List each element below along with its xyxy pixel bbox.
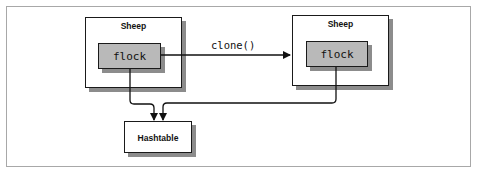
connector-lines [0, 0, 477, 174]
clone-edge-label: clone() [211, 39, 255, 51]
